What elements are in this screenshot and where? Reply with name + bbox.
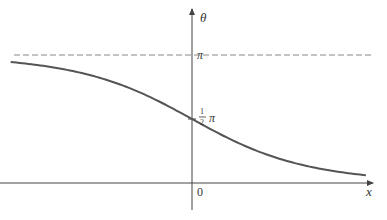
half-pi-numerator: 1 [200, 107, 204, 116]
sigmoid-chart: θ π 1 2 π 0 x [0, 0, 387, 220]
half-pi-symbol: π [209, 111, 216, 125]
half-pi-denominator: 2 [200, 118, 204, 127]
pi-label: π [197, 48, 204, 62]
x-axis-label: x [365, 184, 372, 199]
theta-axis-label: θ [200, 10, 207, 25]
half-pi-label: 1 2 π [199, 107, 216, 127]
origin-label: 0 [197, 185, 203, 199]
